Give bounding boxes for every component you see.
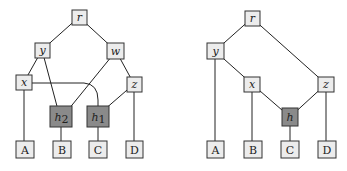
- left-node-r: r: [72, 10, 87, 25]
- left-node-x: x: [16, 75, 32, 90]
- node-label: C: [94, 144, 102, 157]
- node-label: z: [131, 78, 138, 91]
- edge-w-h2: [68, 51, 116, 110]
- right-node-B: B: [244, 141, 262, 158]
- node-label: h: [286, 111, 293, 124]
- node-label: A: [20, 144, 30, 157]
- node-label: h: [54, 111, 61, 124]
- right-graph-edges: [215, 18, 326, 149]
- left-node-B: B: [53, 141, 71, 158]
- left-node-A: A: [16, 141, 34, 158]
- right-node-x: x: [244, 77, 260, 92]
- right-node-y: y: [207, 43, 224, 59]
- node-label: y: [211, 45, 219, 58]
- node-subscript: 2: [62, 113, 69, 126]
- left-node-D: D: [126, 141, 143, 158]
- right-node-h: h: [282, 108, 298, 126]
- edge-y-h2: [42, 50, 58, 110]
- node-label: B: [58, 144, 66, 157]
- node-label: w: [111, 45, 121, 58]
- left-graph-edges: [24, 17, 134, 149]
- right-node-A: A: [207, 141, 224, 158]
- node-label: x: [249, 78, 256, 91]
- node-label: D: [130, 144, 139, 157]
- node-label: A: [211, 144, 221, 157]
- node-label: y: [38, 44, 46, 57]
- right-node-C: C: [281, 141, 299, 158]
- edge-r-z: [252, 18, 326, 84]
- node-label: r: [250, 12, 256, 25]
- left-node-y: y: [35, 43, 50, 58]
- node-label: h: [91, 111, 98, 124]
- right-node-D: D: [318, 141, 336, 158]
- node-subscript: 1: [99, 113, 106, 126]
- node-label: B: [249, 144, 257, 157]
- node-label: z: [322, 78, 329, 91]
- node-label: D: [323, 144, 332, 157]
- node-label: r: [77, 11, 83, 24]
- left-node-h1: h 1: [87, 106, 109, 127]
- right-node-r: r: [245, 11, 260, 26]
- node-label: C: [286, 144, 294, 157]
- diagram-canvas: r y w x z h 2 h 1 A B C D: [0, 0, 347, 171]
- left-node-w: w: [107, 43, 124, 59]
- right-node-z: z: [318, 77, 334, 92]
- left-node-C: C: [89, 141, 107, 158]
- node-label: x: [21, 76, 28, 89]
- left-node-h2: h 2: [50, 106, 72, 127]
- left-node-z: z: [127, 77, 142, 92]
